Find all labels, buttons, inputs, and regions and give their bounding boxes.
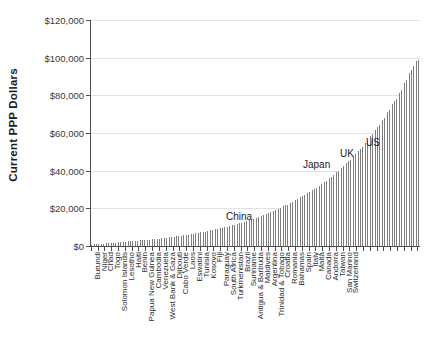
x-axis-tick: [98, 247, 99, 251]
x-axis-tick: [288, 247, 289, 251]
x-axis-tick: [125, 247, 126, 251]
x-axis-tick: [227, 247, 228, 251]
x-axis-tick: [322, 247, 323, 251]
x-axis-tick: [254, 247, 255, 251]
x-axis-tick: [404, 247, 405, 251]
x-axis-tick: [417, 247, 418, 251]
bar-series: [91, 20, 420, 246]
x-axis-labels: BurundiNigerChadTogoSolomon IslandsLesot…: [90, 252, 420, 360]
y-axis-tick-label: $40,000: [24, 165, 84, 176]
x-axis-tick: [315, 247, 316, 251]
x-axis-tick: [132, 247, 133, 251]
x-axis-tick: [104, 247, 105, 251]
x-axis-tick: [220, 247, 221, 251]
x-axis-tick: [397, 247, 398, 251]
x-axis-tick: [356, 247, 357, 251]
y-axis-line: [90, 20, 91, 247]
x-axis-tick: [247, 247, 248, 251]
x-axis-tick-label: Switzerland: [352, 252, 360, 293]
bar: [420, 59, 422, 246]
x-axis-tick: [234, 247, 235, 251]
x-axis-tick: [281, 247, 282, 251]
x-axis-tick: [349, 247, 350, 251]
y-axis-labels: $120,000$100,000$80,000$60,000$40,000$20…: [0, 20, 84, 247]
x-axis-tick: [173, 247, 174, 251]
x-axis-tick: [377, 247, 378, 251]
x-axis-tick: [370, 247, 371, 251]
x-axis-tick: [91, 247, 92, 251]
x-axis-tick: [111, 247, 112, 251]
plot-area: [90, 20, 420, 247]
x-axis-tick: [186, 247, 187, 251]
x-axis-tick: [268, 247, 269, 251]
y-axis-tick-label: $80,000: [24, 90, 84, 101]
x-axis-tick: [329, 247, 330, 251]
y-axis-tick-label: $60,000: [24, 128, 84, 139]
x-axis-tick: [193, 247, 194, 251]
annotation-uk: UK: [340, 148, 354, 159]
annotation-japan: Japan: [303, 159, 330, 170]
x-axis-tick: [138, 247, 139, 251]
x-axis-tick: [295, 247, 296, 251]
x-axis-tick: [200, 247, 201, 251]
x-axis-tick: [118, 247, 119, 251]
x-axis-tick: [166, 247, 167, 251]
annotation-us: US: [366, 137, 380, 148]
x-axis-tick: [383, 247, 384, 251]
x-axis-tick: [261, 247, 262, 251]
x-axis-tick: [363, 247, 364, 251]
annotation-china: China: [226, 211, 252, 222]
x-axis-tick: [207, 247, 208, 251]
x-axis-tick: [390, 247, 391, 251]
x-axis-tick: [145, 247, 146, 251]
x-axis-tick: [411, 247, 412, 251]
x-axis-tick: [302, 247, 303, 251]
x-axis-tick: [309, 247, 310, 251]
x-axis-tick: [241, 247, 242, 251]
y-axis-tick-label: $20,000: [24, 203, 84, 214]
y-axis-tick-label: $0: [24, 241, 84, 252]
x-axis-tick: [213, 247, 214, 251]
ppp-dollars-bar-chart: Current PPP Dollars $120,000$100,000$80,…: [0, 0, 434, 360]
x-axis-tick: [179, 247, 180, 251]
x-axis-tick: [152, 247, 153, 251]
y-axis-tick-label: $120,000: [24, 15, 84, 26]
y-axis-tick-label: $100,000: [24, 52, 84, 63]
x-axis-tick: [275, 247, 276, 251]
x-axis-tick: [336, 247, 337, 251]
x-axis-tick: [159, 247, 160, 251]
x-axis-tick: [343, 247, 344, 251]
